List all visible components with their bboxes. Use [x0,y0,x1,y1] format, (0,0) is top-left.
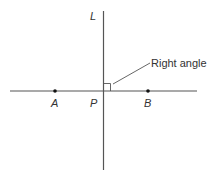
label-b: B [144,97,151,109]
annotation-leader-line [113,63,150,84]
label-right-angle: Right angle [151,57,207,69]
label-a: A [50,97,58,109]
perpendicular-diagram: L A P B Right angle [0,0,212,177]
point-a [53,89,57,93]
point-b [146,89,150,93]
label-l: L [90,10,96,22]
right-angle-marker [104,84,111,92]
label-p: P [90,97,98,109]
